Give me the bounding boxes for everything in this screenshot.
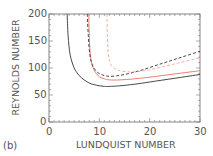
x-tick-label: 20: [144, 126, 157, 137]
red-solid-curve: [89, 14, 200, 80]
axis-ticks: [49, 14, 200, 122]
y-tick-label: 0: [40, 116, 46, 127]
data-curves: [67, 14, 200, 86]
y-tick-label: 100: [28, 62, 47, 73]
x-tick-label: 10: [93, 126, 106, 137]
y-tick-label: 150: [28, 35, 47, 46]
black-dashed-curve: [87, 14, 200, 76]
y-tick-label: 200: [28, 8, 47, 19]
black-solid-curve: [67, 14, 200, 86]
x-tick-label: 0: [46, 126, 52, 137]
panel-label: (b): [3, 140, 17, 151]
y-tick-label: 50: [34, 89, 47, 100]
plot-frame: [49, 14, 200, 122]
y-axis-label: REYNOLDS NUMBER: [10, 19, 21, 115]
x-tick-label: 30: [194, 126, 207, 137]
chart-plot: [0, 0, 213, 156]
pink-dashed-curve: [107, 14, 200, 72]
x-axis-label: LUNDQUIST NUMBER: [76, 139, 176, 150]
